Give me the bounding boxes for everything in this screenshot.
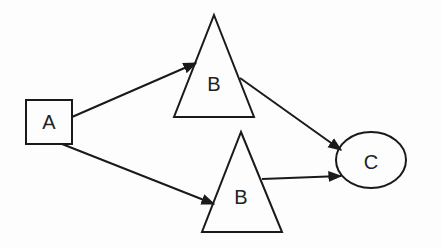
edge-b2-to-c xyxy=(262,176,341,179)
node-b2-label: B xyxy=(234,187,247,207)
node-b1-triangle xyxy=(174,15,254,117)
edge-a-to-b2 xyxy=(62,144,214,204)
diagram-graphics xyxy=(0,0,441,249)
node-b2-triangle xyxy=(202,132,282,232)
edge-b1-to-c xyxy=(240,78,341,150)
node-c-label: C xyxy=(364,152,378,172)
node-a-label: A xyxy=(42,112,55,132)
diagram-canvas: A B B C xyxy=(0,0,441,249)
node-b1-label: B xyxy=(207,74,220,94)
